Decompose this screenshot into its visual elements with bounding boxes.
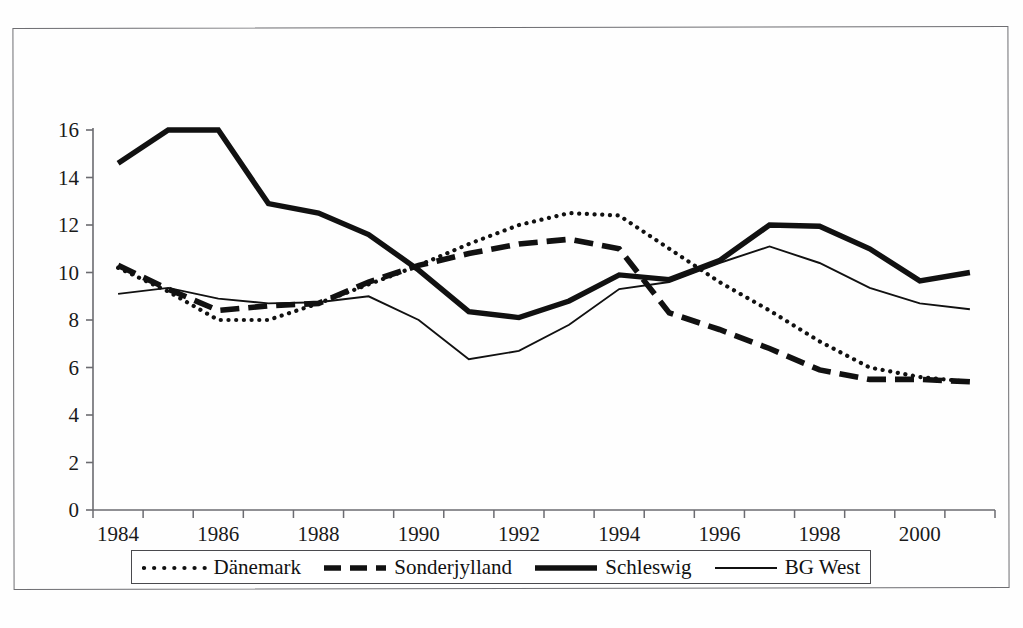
x-tick-label: 1996 [698,522,740,546]
y-tick-label: 2 [69,451,80,475]
legend-item-d-nemark[interactable]: Dänemark [142,557,301,578]
x-tick-label: 1992 [498,522,540,546]
legend-swatch-dotted-icon [142,560,208,574]
legend: DänemarkSonderjyllandSchleswigBG West [131,550,871,584]
y-tick-label: 8 [69,308,80,332]
series-line-schleswig [118,130,970,318]
y-tick-label: 16 [58,118,79,142]
legend-item-sonderjylland[interactable]: Sonderjylland [322,557,512,578]
x-tick-label: 1984 [97,522,140,546]
legend-label: BG West [785,557,861,578]
line-chart: 0246810121416198419861988199019921994199… [0,0,1023,628]
legend-item-schleswig[interactable]: Schleswig [533,557,691,578]
x-tick-label: 1990 [398,522,440,546]
y-tick-label: 10 [58,261,79,285]
legend-label: Sonderjylland [394,557,512,578]
y-axis-ticks: 0246810121416 [58,118,93,522]
x-tick-label: 1988 [298,522,340,546]
x-tick-label: 1986 [197,522,239,546]
legend-swatch-dashed-icon [322,560,388,574]
legend-label: Dänemark [214,557,301,578]
legend-label: Schleswig [605,557,691,578]
legend-item-bg-west[interactable]: BG West [713,557,861,578]
y-tick-label: 6 [69,356,80,380]
series-group [118,130,970,382]
scanned-page: 0246810121416198419861988199019921994199… [0,0,1023,628]
y-tick-label: 14 [58,166,80,190]
x-tick-label: 1998 [799,522,841,546]
x-axis-ticks: 198419861988199019921994199619982000 [93,510,995,546]
y-tick-label: 4 [69,403,80,427]
y-tick-label: 12 [58,213,79,237]
legend-swatch-solid-thick-icon [533,560,599,574]
x-tick-label: 1994 [598,522,641,546]
series-line-bg-west [118,246,970,359]
legend-swatch-solid-thin-icon [713,560,779,574]
x-tick-label: 2000 [899,522,941,546]
y-tick-label: 0 [69,498,80,522]
